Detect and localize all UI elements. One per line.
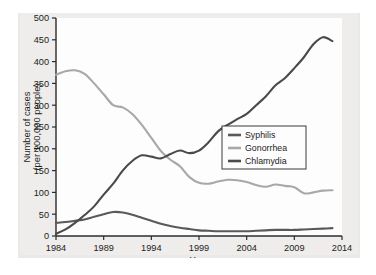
series-line-syphilis: [56, 212, 332, 231]
legend-label-chlamydia: Chlamydia: [245, 156, 287, 166]
x-axis-tick-label: 2009: [284, 243, 304, 253]
x-axis-tick-labels: 1984198919941999200420092014: [46, 243, 352, 253]
legend-label-gonorrhea: Gonorrhea: [245, 143, 287, 153]
y-axis-tick-label: 50: [39, 210, 49, 220]
chart-legend: SyphilisGonorrheaChlamydia: [222, 126, 306, 169]
x-axis-tick-label: 1999: [189, 243, 209, 253]
x-axis-tick-label: 1989: [93, 243, 113, 253]
x-axis-tick-label: 2004: [236, 243, 256, 253]
y-axis-tick-label: 450: [34, 35, 49, 45]
x-axis-title: Year: [190, 254, 209, 258]
x-axis-tick-label: 1994: [141, 243, 161, 253]
y-axis-title-line2: (per 100,000 people): [31, 83, 42, 170]
y-axis-tick-label: 400: [34, 57, 49, 67]
y-axis-tick-label: 100: [34, 188, 49, 198]
x-axis-tick-label: 2014: [332, 243, 352, 253]
y-axis-tick-label: 0: [44, 231, 49, 241]
legend-label-syphilis: Syphilis: [245, 130, 276, 140]
y-axis-tick-label: 500: [34, 13, 49, 23]
line-chart: 050100150200250300350400450500 198419891…: [18, 13, 360, 258]
x-axis-tick-label: 1984: [46, 243, 66, 253]
chart-page: 050100150200250300350400450500 198419891…: [0, 0, 376, 275]
